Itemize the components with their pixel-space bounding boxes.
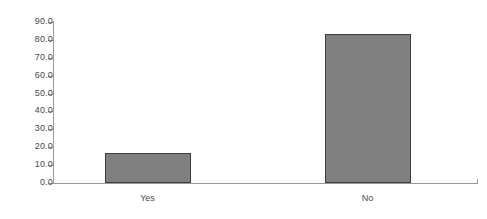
value-axis-tick-label: 30.0	[9, 123, 53, 133]
category-axis-line	[53, 183, 477, 184]
bar	[325, 34, 411, 183]
value-axis-tick-label: 90.0	[9, 16, 53, 26]
value-axis-tick-label: 10.0	[9, 159, 53, 169]
value-axis-tick-label: 20.0	[9, 141, 53, 151]
value-axis-tick-label: 70.0	[9, 52, 53, 62]
value-axis-line	[53, 21, 54, 184]
value-axis-tick-label: 80.0	[9, 34, 53, 44]
value-axis-tick-label: 0.0	[9, 177, 53, 187]
bar-chart: 0.010.020.030.040.050.060.070.080.090.0 …	[0, 0, 487, 219]
value-axis-tick-label: 60.0	[9, 70, 53, 80]
category-axis-label: No	[328, 193, 408, 203]
plot-area: 0.010.020.030.040.050.060.070.080.090.0 …	[0, 0, 487, 219]
category-axis-label: Yes	[108, 193, 188, 203]
category-axis-endcap	[477, 179, 478, 184]
value-axis-tick-label: 40.0	[9, 105, 53, 115]
value-axis-tick-label: 50.0	[9, 88, 53, 98]
bar	[105, 153, 191, 183]
